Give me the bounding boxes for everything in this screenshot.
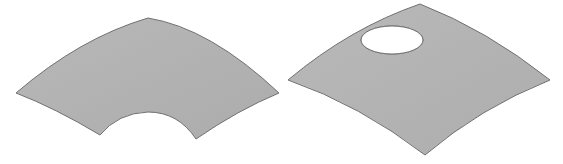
sector-surface-fill: [16, 18, 279, 139]
curved-quad-surface-with-hole: [288, 4, 550, 155]
figure-canvas: [0, 0, 563, 164]
quad-surface-fill: [288, 4, 550, 155]
annular-sector-surface: [16, 18, 279, 139]
elliptical-hole: [361, 26, 423, 54]
